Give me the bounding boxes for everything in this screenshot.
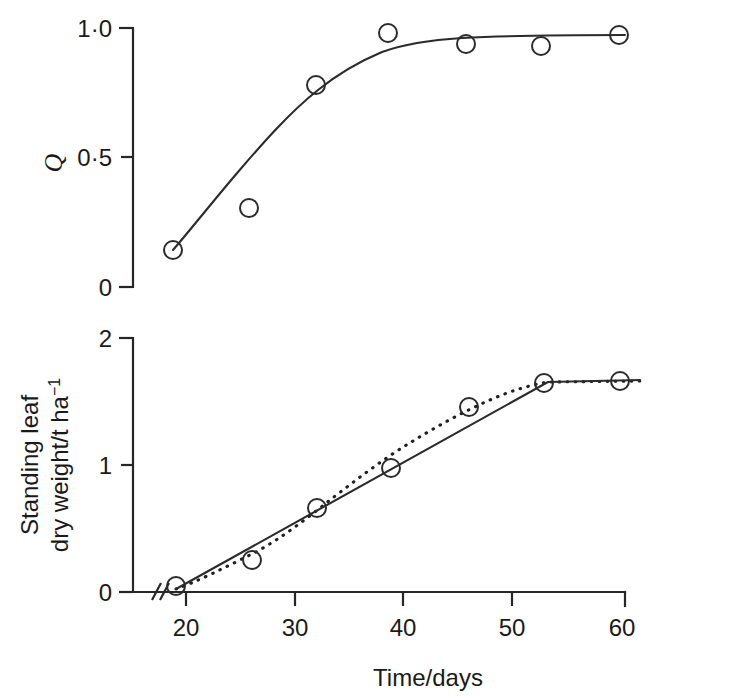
bottom-y-axis-title-superscript: −1 xyxy=(46,378,63,396)
x-tick-label-30: 30 xyxy=(282,614,309,641)
top-y-tick-label-0: 0 xyxy=(99,274,112,301)
bottom-y-tick-label-1: 1 xyxy=(99,452,112,479)
data-point xyxy=(243,551,261,569)
data-point xyxy=(379,24,397,42)
bottom-y-tick-label-2: 2 xyxy=(99,325,112,352)
bottom-panel-data-markers xyxy=(167,372,629,595)
bottom-panel-x-axis xyxy=(133,583,625,606)
x-tick-label-50: 50 xyxy=(499,614,526,641)
bottom-panel-dotted-curve xyxy=(176,381,640,589)
bottom-panel: 2 1 0 Standing leaf dry weight/t ha−1 xyxy=(16,325,640,691)
figure-root: 1·0 0·5 0 Q xyxy=(0,0,749,696)
data-point xyxy=(532,37,550,55)
bottom-y-axis-title-line2-text: dry weight/t ha xyxy=(46,395,73,552)
x-tick-label-60: 60 xyxy=(609,614,636,641)
top-y-tick-label-1-0: 1·0 xyxy=(77,15,112,42)
bottom-panel-y-axis-title-line2: dry weight/t ha−1 xyxy=(46,378,73,552)
top-panel-y-axis xyxy=(119,28,133,287)
top-panel-fitted-curve xyxy=(173,35,625,250)
top-panel-data-markers xyxy=(164,24,628,259)
data-point xyxy=(240,199,258,217)
bottom-panel-x-axis-title: Time/days xyxy=(373,664,483,691)
top-panel-y-axis-title: Q xyxy=(39,153,68,172)
data-point xyxy=(382,459,400,477)
scientific-figure: 1·0 0·5 0 Q xyxy=(0,0,749,696)
top-y-tick-label-0-5: 0·5 xyxy=(77,144,112,171)
x-tick-label-40: 40 xyxy=(390,614,417,641)
bottom-panel-y-axis xyxy=(119,338,133,592)
bottom-panel-y-axis-title-line1: Standing leaf xyxy=(16,395,43,535)
top-panel: 1·0 0·5 0 Q xyxy=(39,15,628,301)
x-tick-label-20: 20 xyxy=(173,614,200,641)
bottom-y-tick-label-0: 0 xyxy=(99,579,112,606)
bottom-panel-solid-curve xyxy=(176,380,640,589)
